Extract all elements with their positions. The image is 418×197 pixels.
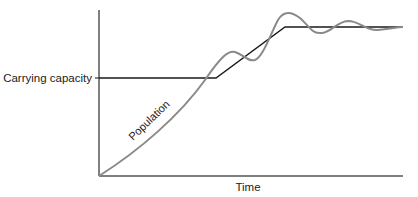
population-curve [99, 13, 403, 176]
time-label: Time [235, 181, 260, 193]
chart: Carrying capacity Population Time [0, 0, 418, 197]
carrying-capacity-label: Carrying capacity [3, 72, 92, 84]
population-label: Population [126, 98, 172, 143]
carrying-capacity-line [99, 27, 403, 78]
